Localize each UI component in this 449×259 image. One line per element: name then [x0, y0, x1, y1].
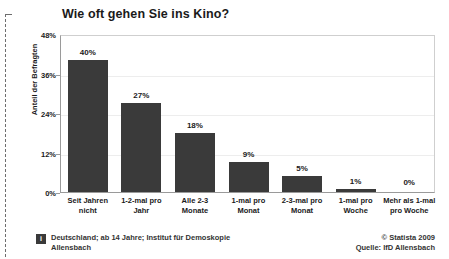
- x-axis-label: Seit Jahren nicht: [61, 196, 115, 215]
- y-axis-ticks: 48%36%24%12%0%: [12, 35, 56, 193]
- y-tick-label: 48%: [16, 31, 56, 40]
- y-tick-label: 24%: [16, 110, 56, 119]
- copyright-text: © Statista 2009: [356, 233, 435, 243]
- bar[interactable]: [229, 162, 269, 192]
- bar[interactable]: [175, 133, 215, 192]
- bar[interactable]: [282, 176, 322, 192]
- x-axis-label: Alle 2-3 Monate: [168, 196, 222, 215]
- bar-group[interactable]: 27%: [121, 36, 161, 192]
- bar-group[interactable]: 40%: [68, 36, 108, 192]
- bar-group[interactable]: 0%: [389, 36, 429, 192]
- bar-value-label: 0%: [377, 178, 441, 187]
- x-axis-label: 1-2-mal pro Jahr: [115, 196, 169, 215]
- y-tick-label: 12%: [16, 149, 56, 158]
- bar-group[interactable]: 1%: [336, 36, 376, 192]
- bar[interactable]: [68, 60, 108, 192]
- x-axis-labels: Seit Jahren nicht1-2-mal pro JahrAlle 2-…: [61, 196, 435, 236]
- x-axis-label: 2-3-mal pro Monat: [275, 196, 329, 215]
- page-left-dashed-border: [5, 14, 6, 257]
- x-axis-label: 1-mal pro Woche: [329, 196, 383, 215]
- footnote-text: Deutschland; ab 14 Jahre; Institut für D…: [51, 233, 251, 253]
- bar[interactable]: [336, 189, 376, 192]
- bar-value-label: 5%: [270, 164, 334, 173]
- page-top-left-border-cap: [5, 14, 12, 15]
- y-tick-label: 0%: [16, 189, 56, 198]
- x-axis-label: 1-mal pro Monat: [222, 196, 276, 215]
- bar-group[interactable]: 9%: [229, 36, 269, 192]
- chart-page: Wie oft gehen Sie ins Kino? Anteil der B…: [0, 0, 449, 259]
- x-axis-label: Mehr als 1-mal pro Woche: [382, 196, 436, 215]
- info-icon: i: [36, 234, 46, 244]
- source-text: Quelle: IfD Allensbach: [356, 243, 435, 253]
- y-tick-mark: [56, 193, 60, 194]
- source-block: © Statista 2009 Quelle: IfD Allensbach: [356, 233, 435, 253]
- footnote: i Deutschland; ab 14 Jahre; Institut für…: [36, 233, 251, 253]
- bar-group[interactable]: 18%: [175, 36, 215, 192]
- plot-area: 40%27%18%9%5%1%0%: [60, 35, 435, 193]
- chart-title: Wie oft gehen Sie ins Kino?: [62, 7, 229, 21]
- y-tick-label: 36%: [16, 70, 56, 79]
- bar[interactable]: [121, 103, 161, 192]
- bar-value-label: 40%: [56, 48, 120, 57]
- bar-value-label: 27%: [109, 91, 173, 100]
- bar-value-label: 18%: [163, 121, 227, 130]
- bar-group[interactable]: 5%: [282, 36, 322, 192]
- bar-value-label: 9%: [217, 150, 281, 159]
